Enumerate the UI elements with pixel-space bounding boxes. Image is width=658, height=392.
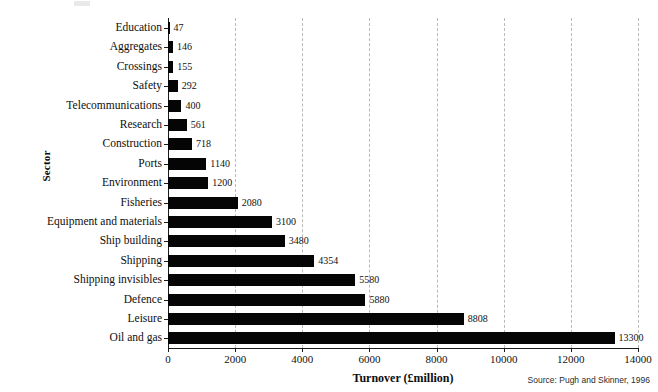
scan-artifact	[74, 1, 90, 6]
bar	[168, 100, 181, 112]
bar-value-label: 155	[173, 61, 192, 73]
category-label: Ports	[2, 157, 162, 170]
x-tick-mark	[504, 348, 505, 352]
bar-row: Shipping invisibles5580	[168, 270, 638, 291]
x-tick-label: 0	[165, 353, 171, 365]
bar-row: Fisheries2080	[168, 193, 638, 214]
bar-row: Telecommunications400	[168, 96, 638, 117]
bar	[168, 294, 365, 306]
bar	[168, 216, 272, 228]
bar-row: Ports1140	[168, 154, 638, 175]
plot-area: Education47Aggregates146Crossings155Safe…	[168, 18, 638, 348]
category-label: Aggregates	[2, 40, 162, 53]
bar	[168, 119, 187, 131]
bar-value-label: 47	[170, 22, 184, 34]
x-tick-mark	[437, 348, 438, 352]
bar-row: Oil and gas13300	[168, 328, 638, 349]
bar	[168, 255, 314, 267]
x-tick-label: 10000	[490, 353, 518, 365]
bar-value-label: 3480	[285, 235, 309, 247]
bar-row: Crossings155	[168, 57, 638, 78]
source-note: Source: Pugh and Skinner, 1996	[528, 375, 650, 385]
bar-value-label: 561	[187, 119, 206, 131]
x-axis-line	[168, 348, 638, 349]
x-tick-label: 8000	[426, 353, 448, 365]
bar-value-label: 2080	[238, 197, 262, 209]
bar	[168, 197, 238, 209]
bar-row: Aggregates146	[168, 37, 638, 58]
category-label: Leisure	[2, 312, 162, 325]
category-label: Fisheries	[2, 196, 162, 209]
bar-row: Education47	[168, 18, 638, 39]
bar-row: Research561	[168, 115, 638, 136]
bar-value-label: 1140	[206, 158, 230, 170]
category-label: Shipping invisibles	[2, 273, 162, 286]
category-label: Oil and gas	[2, 331, 162, 344]
bar	[168, 177, 208, 189]
category-label: Crossings	[2, 60, 162, 73]
bar	[168, 274, 355, 286]
gridline	[638, 18, 639, 348]
category-label: Shipping	[2, 254, 162, 267]
bar-row: Leisure8808	[168, 309, 638, 330]
bar-row: Ship building3480	[168, 231, 638, 252]
bar	[168, 235, 285, 247]
x-tick-mark	[302, 348, 303, 352]
bar	[168, 158, 206, 170]
bar-value-label: 3100	[272, 216, 296, 228]
category-label: Telecommunications	[2, 99, 162, 112]
category-label: Ship building	[2, 234, 162, 247]
bar-row: Shipping4354	[168, 251, 638, 272]
x-tick-mark	[638, 348, 639, 352]
bar-value-label: 400	[181, 100, 200, 112]
bar	[168, 80, 178, 92]
bar	[168, 138, 192, 150]
x-tick-label: 2000	[224, 353, 246, 365]
bar-row: Construction718	[168, 134, 638, 155]
category-label: Construction	[2, 137, 162, 150]
x-tick-label: 14000	[624, 353, 652, 365]
bar-value-label: 292	[178, 80, 197, 92]
bar-value-label: 4354	[314, 255, 338, 267]
x-tick-label: 4000	[291, 353, 313, 365]
x-tick-label: 12000	[557, 353, 585, 365]
category-label: Education	[2, 21, 162, 34]
bar-row: Safety292	[168, 76, 638, 97]
bar-value-label: 13300	[615, 332, 644, 344]
bar-value-label: 718	[192, 138, 211, 150]
category-label: Defence	[2, 293, 162, 306]
bar	[168, 332, 615, 344]
bar-value-label: 8808	[464, 313, 488, 325]
category-label: Equipment and materials	[2, 215, 162, 228]
bar-value-label: 5880	[365, 294, 389, 306]
category-label: Research	[2, 118, 162, 131]
bar-value-label: 146	[173, 41, 192, 53]
bar-row: Defence5880	[168, 290, 638, 311]
bar	[168, 313, 464, 325]
category-label: Environment	[2, 176, 162, 189]
bar-chart-figure: Sector Education47Aggregates146Crossings…	[0, 0, 658, 392]
x-tick-mark	[235, 348, 236, 352]
category-label: Safety	[2, 79, 162, 92]
x-tick-mark	[369, 348, 370, 352]
bar-row: Environment1200	[168, 173, 638, 194]
bar-value-label: 1200	[208, 177, 232, 189]
x-tick-mark	[571, 348, 572, 352]
bar-row: Equipment and materials3100	[168, 212, 638, 233]
bar-value-label: 5580	[355, 274, 379, 286]
x-tick-label: 6000	[358, 353, 380, 365]
x-tick-mark	[168, 348, 169, 352]
